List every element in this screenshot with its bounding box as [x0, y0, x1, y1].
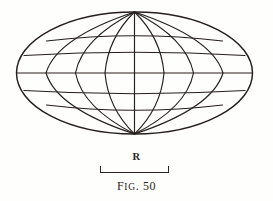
scale-bar-label: R: [0, 151, 273, 162]
scale-bar-block: R FIG. 50: [0, 150, 273, 201]
scale-bar-tick-right: [168, 166, 169, 173]
caption-smallcaps: IG: [124, 182, 135, 192]
figure-container: R FIG. 50: [0, 0, 273, 201]
scale-bar-ruler: [100, 165, 169, 173]
scale-bar-tick-left: [100, 166, 101, 173]
caption-number: . 50: [136, 179, 156, 193]
scale-bar-line: [100, 172, 169, 173]
map-projection-graticule: [0, 0, 273, 150]
figure-caption: FIG. 50: [0, 176, 273, 194]
